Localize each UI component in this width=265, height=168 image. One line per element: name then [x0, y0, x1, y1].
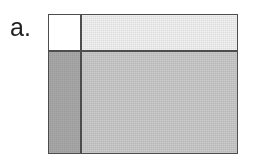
diagram-inner	[49, 15, 237, 153]
divider-horizontal	[49, 50, 237, 52]
region-bottom-right	[80, 50, 237, 153]
divider-vertical	[80, 15, 82, 153]
panel-label: a.	[10, 13, 31, 41]
diagram-box	[48, 14, 238, 154]
region-top-right	[80, 15, 237, 50]
region-bottom-left	[49, 50, 80, 153]
region-top-left	[49, 15, 80, 50]
figure-panel: a.	[0, 0, 265, 168]
